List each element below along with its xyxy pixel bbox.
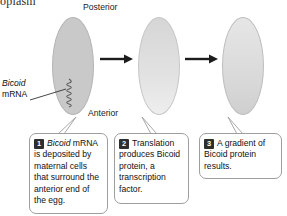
egg-stage-3 <box>222 17 264 115</box>
step-number-badge: 1 <box>34 139 44 149</box>
callout-step-2[interactable]: 2 Translation produces Bicoid protein, a… <box>114 133 189 204</box>
callout-step-1[interactable]: 1 Bicoid mRNA is deposited by maternal c… <box>29 133 108 214</box>
callout-text-1: Bicoid mRNA is deposited by maternal cel… <box>34 138 102 206</box>
callout-step-3[interactable]: 3 A gradient of Bicoid protein results. <box>199 133 282 179</box>
mrna-molecule-name: mRNA <box>2 89 27 99</box>
cut-off-heading: oplasm <box>0 0 36 9</box>
bicoid-mrna-label: Bicoid mRNA <box>2 78 58 99</box>
right-arrow-icon <box>100 53 134 65</box>
callout-1-italic-term: Bicoid <box>47 138 70 148</box>
posterior-label: Posterior <box>83 2 117 12</box>
right-arrow-icon <box>185 53 219 65</box>
step-number-badge: 3 <box>204 139 214 149</box>
step-number-badge: 2 <box>119 139 129 149</box>
bicoid-gene-name: Bicoid <box>2 78 25 88</box>
callout-text-3: A gradient of Bicoid protein results. <box>204 138 276 172</box>
anterior-label: Anterior <box>88 108 118 118</box>
figure-canvas: oplasm Posterior Anterior Bicoid mRNA 1 … <box>0 0 287 216</box>
egg-stage-2 <box>138 17 180 115</box>
